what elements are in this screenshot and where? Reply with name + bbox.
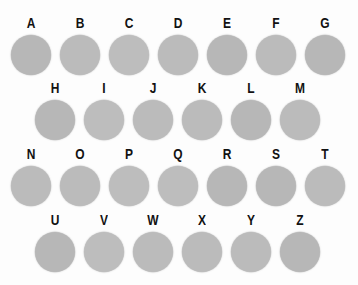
circle-disc-w[interactable]	[133, 232, 173, 272]
circle-label-m: M	[283, 79, 317, 96]
circle-disc-r[interactable]	[207, 166, 247, 206]
circle-disc-b[interactable]	[60, 35, 100, 75]
circle-disc-p[interactable]	[109, 166, 149, 206]
circle-label-p: P	[112, 145, 146, 162]
circle-label-d: D	[161, 14, 195, 31]
circle-disc-y[interactable]	[231, 232, 271, 272]
circle-disc-s[interactable]	[256, 166, 296, 206]
circle-disc-n[interactable]	[11, 166, 51, 206]
circle-cell-a[interactable]: A	[10, 14, 52, 76]
circle-cell-k[interactable]: K	[181, 79, 223, 141]
circle-cell-i[interactable]: I	[83, 79, 125, 141]
circle-label-g: G	[308, 14, 342, 31]
circle-disc-j[interactable]	[133, 100, 173, 140]
circle-label-r: R	[210, 145, 244, 162]
circle-cell-q[interactable]: Q	[157, 145, 199, 207]
circle-cell-p[interactable]: P	[108, 145, 150, 207]
circle-disc-t[interactable]	[305, 166, 345, 206]
circle-cell-w[interactable]: W	[132, 211, 174, 273]
circle-label-q: Q	[161, 145, 195, 162]
circle-disc-a[interactable]	[11, 35, 51, 75]
circle-disc-k[interactable]	[182, 100, 222, 140]
circle-cell-l[interactable]: L	[230, 79, 272, 141]
circle-label-n: N	[14, 145, 48, 162]
circle-label-k: K	[185, 79, 219, 96]
circle-label-y: Y	[234, 211, 268, 228]
circle-cell-f[interactable]: F	[255, 14, 297, 76]
circle-label-z: Z	[283, 211, 317, 228]
circle-label-i: I	[87, 79, 121, 96]
circle-disc-i[interactable]	[84, 100, 124, 140]
circle-cell-e[interactable]: E	[206, 14, 248, 76]
circle-cell-y[interactable]: Y	[230, 211, 272, 273]
circle-cell-r[interactable]: R	[206, 145, 248, 207]
circle-cell-n[interactable]: N	[10, 145, 52, 207]
circle-disc-l[interactable]	[231, 100, 271, 140]
circle-label-s: S	[259, 145, 293, 162]
circle-cell-u[interactable]: U	[34, 211, 76, 273]
circle-label-x: X	[185, 211, 219, 228]
circle-disc-m[interactable]	[280, 100, 320, 140]
circle-cell-t[interactable]: T	[304, 145, 346, 207]
circle-disc-o[interactable]	[60, 166, 100, 206]
circle-cell-g[interactable]: G	[304, 14, 346, 76]
circle-disc-v[interactable]	[84, 232, 124, 272]
circle-cell-j[interactable]: J	[132, 79, 174, 141]
circle-disc-d[interactable]	[158, 35, 198, 75]
circle-label-t: T	[308, 145, 342, 162]
circle-cell-h[interactable]: H	[34, 79, 76, 141]
circle-label-v: V	[87, 211, 121, 228]
circle-label-j: J	[136, 79, 170, 96]
circle-label-c: C	[112, 14, 146, 31]
circle-label-h: H	[38, 79, 72, 96]
circle-disc-e[interactable]	[207, 35, 247, 75]
circle-disc-z[interactable]	[280, 232, 320, 272]
circle-cell-c[interactable]: C	[108, 14, 150, 76]
circle-cell-s[interactable]: S	[255, 145, 297, 207]
row-1: ABCDEFG	[0, 14, 358, 76]
circle-grid-board: ABCDEFGHIJKLMNOPQRSTUVWXYZ	[0, 0, 358, 285]
circle-label-a: A	[14, 14, 48, 31]
row-2: HIJKLM	[0, 79, 358, 141]
circle-cell-o[interactable]: O	[59, 145, 101, 207]
circle-disc-x[interactable]	[182, 232, 222, 272]
circle-cell-d[interactable]: D	[157, 14, 199, 76]
circle-cell-b[interactable]: B	[59, 14, 101, 76]
circle-disc-f[interactable]	[256, 35, 296, 75]
circle-cell-x[interactable]: X	[181, 211, 223, 273]
circle-cell-v[interactable]: V	[83, 211, 125, 273]
circle-label-l: L	[234, 79, 268, 96]
circle-label-u: U	[38, 211, 72, 228]
circle-disc-c[interactable]	[109, 35, 149, 75]
circle-disc-q[interactable]	[158, 166, 198, 206]
row-4: UVWXYZ	[0, 211, 358, 273]
circle-disc-g[interactable]	[305, 35, 345, 75]
row-3: NOPQRST	[0, 145, 358, 207]
circle-cell-m[interactable]: M	[279, 79, 321, 141]
circle-disc-u[interactable]	[35, 232, 75, 272]
circle-disc-h[interactable]	[35, 100, 75, 140]
circle-label-o: O	[63, 145, 97, 162]
circle-label-b: B	[63, 14, 97, 31]
circle-label-f: F	[259, 14, 293, 31]
circle-cell-z[interactable]: Z	[279, 211, 321, 273]
circle-label-w: W	[136, 211, 170, 228]
circle-label-e: E	[210, 14, 244, 31]
